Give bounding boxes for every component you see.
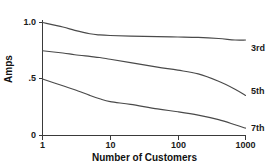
x-axis-title: Number of Customers <box>42 153 247 163</box>
y-tick-label-0: 0 <box>8 131 36 140</box>
series-line-3rd <box>43 23 246 41</box>
y-tick-label-1.0: 1.0 <box>8 18 36 27</box>
series-label-5th: 5th <box>251 87 265 96</box>
chart-figure: 1.0 .5 0 1 10 100 1000 Amps Number of Cu… <box>0 0 277 168</box>
x-tick-label-1: 1 <box>30 141 55 150</box>
series-label-3rd: 3rd <box>251 44 265 53</box>
x-tick-label-10: 10 <box>98 141 123 150</box>
x-tick-label-1000: 1000 <box>233 141 258 150</box>
series-label-7th: 7th <box>251 124 265 133</box>
y-axis-title: Amps <box>4 47 14 91</box>
series-line-7th <box>43 79 246 128</box>
x-tick-label-100: 100 <box>166 141 191 150</box>
